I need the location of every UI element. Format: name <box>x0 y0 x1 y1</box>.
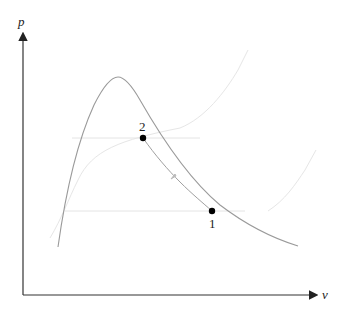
isotherm-low-curve <box>268 150 316 211</box>
pv-diagram: p v 2 1 <box>0 0 346 312</box>
state-point-2 <box>140 135 146 141</box>
y-axis-label: p <box>17 14 25 29</box>
state-point-1-label: 1 <box>209 216 216 231</box>
saturation-dome-curve <box>58 77 298 247</box>
state-point-1 <box>209 208 215 214</box>
x-axis-label: v <box>322 287 328 302</box>
process-1-2-curve <box>143 138 212 211</box>
state-point-2-label: 2 <box>139 119 146 134</box>
